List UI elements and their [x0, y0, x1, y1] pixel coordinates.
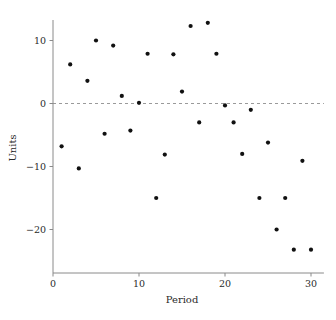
- plot-canvas: 0102030 100−10−20 Period Units: [0, 0, 336, 320]
- data-point: [137, 101, 141, 105]
- data-point: [103, 132, 107, 136]
- data-point: [257, 196, 261, 200]
- y-tick-label: 10: [34, 35, 46, 46]
- x-axis-ticks: 0102030: [50, 273, 317, 289]
- data-point: [180, 89, 184, 93]
- data-point: [154, 196, 158, 200]
- data-point: [60, 144, 64, 148]
- y-axis-ticks: 100−10−20: [26, 35, 53, 235]
- data-point: [206, 21, 210, 25]
- data-point: [94, 38, 98, 42]
- y-tick-label: −10: [26, 161, 46, 172]
- data-point: [77, 166, 81, 170]
- data-point: [85, 79, 89, 83]
- x-tick-label: 10: [133, 278, 145, 289]
- y-tick-label: −20: [26, 224, 46, 235]
- data-point: [171, 52, 175, 56]
- data-point: [163, 152, 167, 156]
- data-point: [189, 24, 193, 28]
- y-tick-label: 0: [40, 98, 46, 109]
- data-point: [309, 248, 313, 252]
- axis-spines: [53, 20, 324, 273]
- data-points: [60, 21, 314, 252]
- y-axis-label: Units: [7, 134, 18, 161]
- x-axis-label: Period: [166, 294, 199, 305]
- data-point: [300, 159, 304, 163]
- scatter-plot-figure: 0102030 100−10−20 Period Units: [0, 0, 336, 320]
- x-tick-label: 20: [219, 278, 231, 289]
- data-point: [197, 120, 201, 124]
- data-point: [266, 140, 270, 144]
- data-point: [120, 94, 124, 98]
- data-point: [223, 103, 227, 107]
- data-point: [128, 128, 132, 132]
- data-point: [292, 248, 296, 252]
- data-point: [283, 196, 287, 200]
- data-point: [275, 227, 279, 231]
- x-tick-label: 30: [305, 278, 317, 289]
- data-point: [249, 108, 253, 112]
- data-point: [111, 43, 115, 47]
- data-point: [240, 152, 244, 156]
- data-point: [232, 120, 236, 124]
- data-point: [146, 52, 150, 56]
- data-point: [214, 52, 218, 56]
- data-point: [68, 62, 72, 66]
- x-tick-label: 0: [50, 278, 56, 289]
